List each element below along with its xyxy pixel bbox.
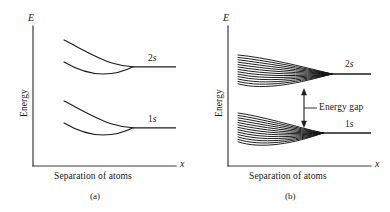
level-label-2s-orbital: s [350,59,354,69]
x-axis-symbol: x [375,159,379,169]
energy-band-figure: E x Energy Separation of atoms 2s 1s (a) [0,0,390,212]
energy-gap-label: Energy gap [319,103,363,113]
level-label-1s-orbital: s [153,114,157,124]
x-axis-label: Separation of atoms [249,172,327,182]
y-axis-label: Energy [215,89,225,117]
band-1s [238,113,323,145]
panel-caption-a: (a) [90,192,100,201]
level-label-2s-orbital: s [153,53,157,63]
level-label-1s: 1s [345,120,353,130]
y-axis-symbol: E [28,13,34,23]
level-label-2s: 2s [148,54,156,64]
arrow-head-up [301,88,307,95]
x-axis-label: Separation of atoms [54,172,132,182]
band-2s [238,55,332,87]
arrow-head-down [301,121,307,128]
panel-b: E x Energy Separation of atoms Energy ga… [195,0,390,212]
curve-1s-lower [64,123,133,135]
curve-2s-lower [64,62,133,74]
level-label-1s-orbital: s [350,119,354,129]
energy-gap-arrow [301,88,317,128]
panel-a: E x Energy Separation of atoms 2s 1s (a) [0,0,195,212]
level-label-1s: 1s [148,115,156,125]
level-label-2s: 2s [345,60,353,70]
curve-1s-upper [64,101,133,128]
y-axis-label: Energy [20,89,30,117]
x-axis-symbol: x [180,159,184,169]
panel-caption-b: (b) [285,192,296,201]
y-axis-symbol: E [223,13,229,23]
curve-2s-upper [64,40,133,67]
